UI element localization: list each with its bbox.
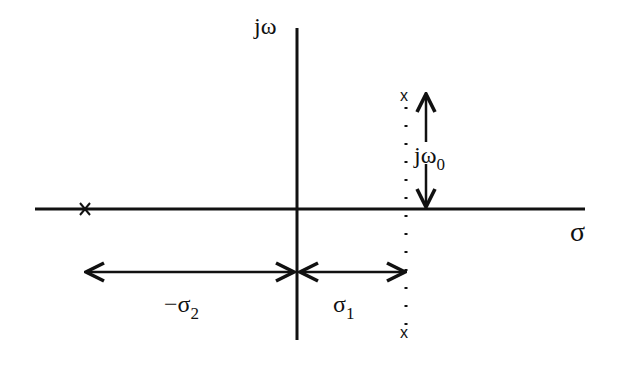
upper-complex-pole-marker: x [400, 88, 408, 104]
omega0-label: jω0 [414, 143, 445, 167]
lower-complex-pole-marker: x [400, 325, 408, 341]
sigma1-label: σ1 [333, 292, 354, 316]
real-axis-label: σ [570, 218, 585, 246]
sigma2-label: −σ2 [164, 292, 199, 316]
imaginary-axis-label: jω [254, 14, 276, 38]
s-plane-diagram [0, 0, 628, 365]
